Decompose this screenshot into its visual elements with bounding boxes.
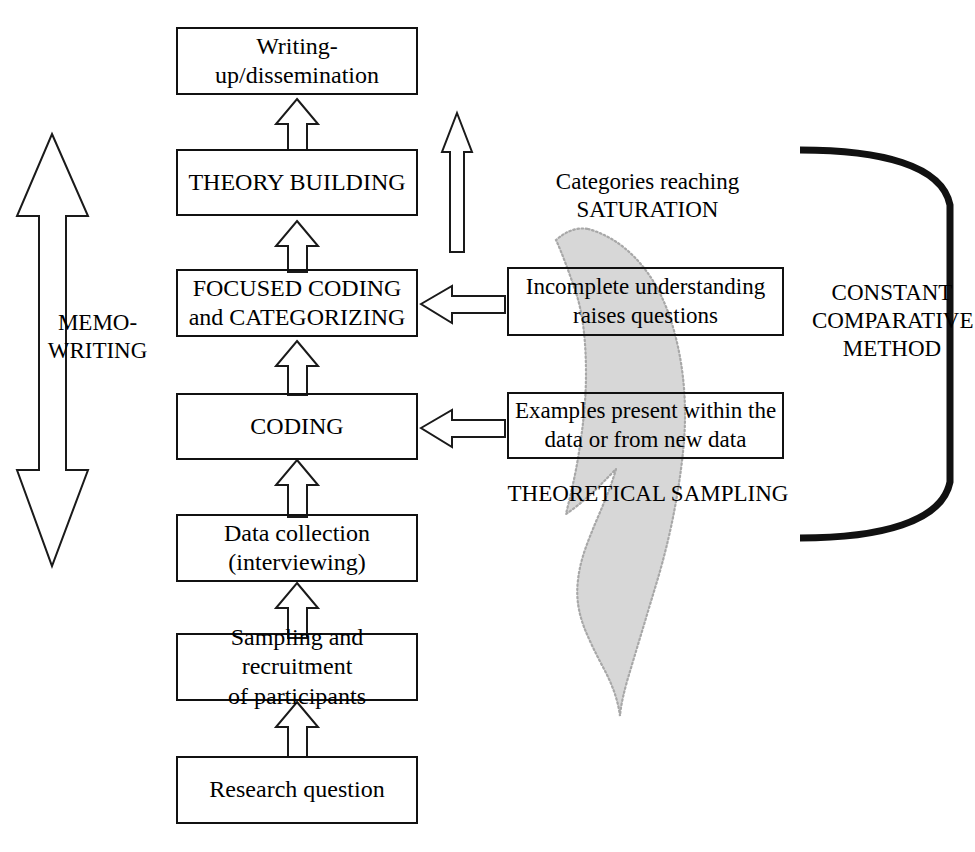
flow-box-theory-building[interactable]: THEORY BUILDING	[176, 149, 418, 216]
flow-box-theory-building-label: THEORY BUILDING	[188, 168, 405, 197]
flow-box-research-question-label: Research question	[209, 775, 384, 804]
feedback-up-arrow	[442, 113, 472, 252]
memo-writing-label: MEMO- WRITING	[30, 309, 165, 365]
constant-comparative-method-label: CONSTANT COMPARATIVE METHOD	[812, 279, 972, 363]
flow-box-sampling-label: Sampling and recruitment of participants	[178, 623, 416, 711]
theoretical-sampling-label: THEORETICAL SAMPLING	[493, 480, 803, 508]
side-arrow-incomplete-understanding	[421, 286, 505, 323]
side-box-examples-present[interactable]: Examples present within the data or from…	[507, 392, 784, 459]
flow-box-focused-coding-label: FOCUSED CODING and CATEGORIZING	[189, 274, 406, 333]
categories-saturation-label: Categories reaching SATURATION	[530, 168, 765, 224]
step-arrow-theory-building-to-writing-up	[276, 99, 318, 150]
flow-box-coding-label: CODING	[250, 412, 343, 441]
flow-box-writing-up[interactable]: Writing-up/dissemination	[176, 27, 418, 95]
side-box-incomplete-understanding-label: Incomplete understanding raises question…	[526, 273, 766, 329]
flow-box-writing-up-label: Writing-up/dissemination	[178, 32, 416, 91]
step-arrow-focused-coding-to-theory-building	[276, 221, 318, 272]
diagram-canvas: Writing-up/dissemination THEORY BUILDING…	[0, 0, 975, 852]
flow-box-data-collection-label: Data collection (interviewing)	[224, 519, 370, 578]
flow-box-focused-coding[interactable]: FOCUSED CODING and CATEGORIZING	[176, 269, 418, 337]
flow-box-sampling[interactable]: Sampling and recruitment of participants	[176, 633, 418, 701]
step-arrow-coding-to-focused-coding	[276, 341, 318, 395]
flow-box-coding[interactable]: CODING	[176, 393, 418, 460]
side-box-examples-present-label: Examples present within the data or from…	[515, 397, 776, 453]
side-box-incomplete-understanding[interactable]: Incomplete understanding raises question…	[507, 267, 784, 336]
step-arrow-data-collection-to-coding	[276, 460, 318, 517]
arrow-layer	[0, 0, 975, 852]
flow-box-research-question[interactable]: Research question	[176, 756, 418, 824]
flow-box-data-collection[interactable]: Data collection (interviewing)	[176, 514, 418, 582]
side-arrow-examples-present	[421, 410, 505, 447]
